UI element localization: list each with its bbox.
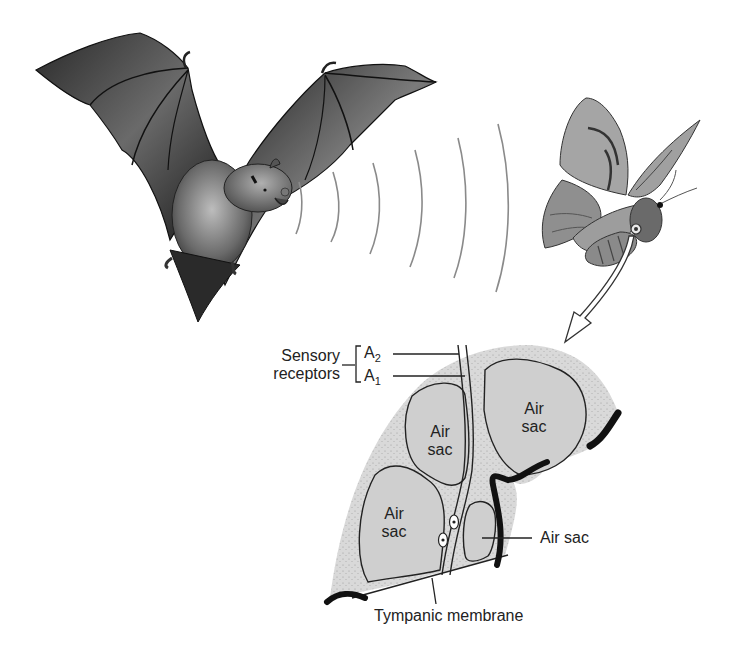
label-tympanic-membrane: Tympanic membrane <box>374 607 523 625</box>
moth-icon <box>542 98 700 266</box>
figure: Sensory receptors A2 A1 Air sac Air sac … <box>0 0 732 650</box>
tympanic-leader <box>432 578 436 604</box>
label-air-sac-bottom-left: Air sac <box>369 505 419 541</box>
label-text: Air <box>509 400 559 418</box>
label-sensory-line1: Sensory <box>250 347 340 365</box>
label-text: Air <box>369 505 419 523</box>
label-sensory-line2: receptors <box>250 365 340 383</box>
receptor-bracket <box>356 346 361 382</box>
label-air-sac-top-left: Air sac <box>415 423 465 459</box>
illustration-canvas <box>0 0 732 650</box>
label-text: sac <box>415 441 465 459</box>
label-a2-base: A <box>364 344 375 361</box>
label-text: Air <box>415 423 465 441</box>
label-a2: A2 <box>364 344 381 363</box>
label-a2-sub: 2 <box>375 352 381 364</box>
label-a1: A1 <box>364 367 381 386</box>
label-text: sac <box>369 523 419 541</box>
label-a1-sub: 1 <box>375 375 381 387</box>
label-air-sac-top-right: Air sac <box>509 400 559 436</box>
label-text: sac <box>509 418 559 436</box>
label-a1-base: A <box>364 367 375 384</box>
label-sensory-receptors: Sensory receptors <box>250 347 340 383</box>
label-air-sac-small: Air sac <box>540 529 589 547</box>
